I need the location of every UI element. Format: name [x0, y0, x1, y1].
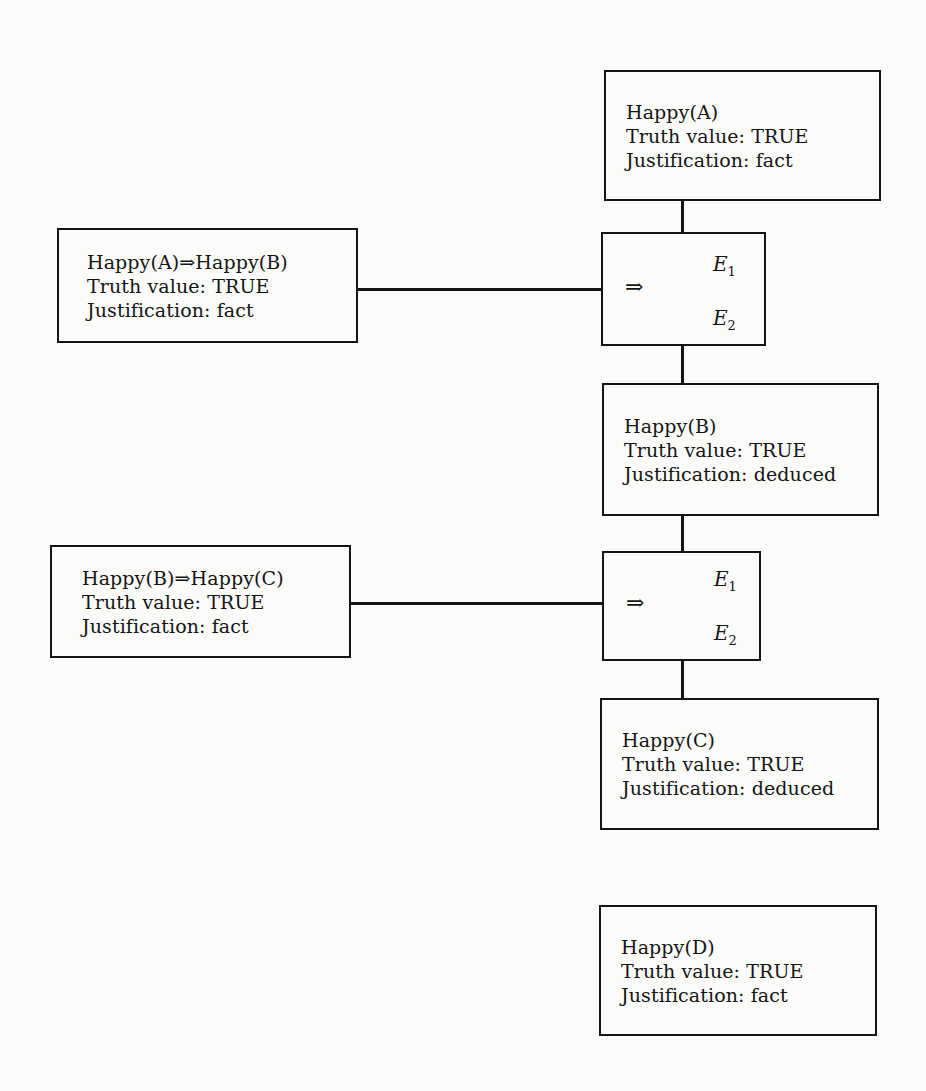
node-happy-b: Happy(B) Truth value: TRUE Justification… [602, 383, 879, 516]
node-label: Happy(B)⇒Happy(C) [82, 566, 284, 590]
rule-node-2: ⇒ E1 E2 [602, 551, 761, 661]
node-happy-d: Happy(D) Truth value: TRUE Justification… [599, 905, 877, 1036]
rule-node-1: ⇒ E1 E2 [601, 232, 766, 346]
edge-rule1-to-b [681, 344, 684, 384]
truth-value: Truth value: TRUE [87, 274, 288, 298]
node-rule-ab: Happy(A)⇒Happy(B) Truth value: TRUE Just… [57, 228, 358, 343]
node-happy-a: Happy(A) Truth value: TRUE Justification… [604, 70, 881, 201]
justification: Justification: deduced [624, 462, 836, 486]
edge-b-to-rule2 [681, 514, 684, 552]
edge-ruleab-to-rule1 [356, 288, 602, 291]
node-label: Happy(A)⇒Happy(B) [87, 250, 288, 274]
node-label: Happy(C) [622, 728, 834, 752]
node-label: Happy(B) [624, 414, 836, 438]
node-happy-c: Happy(C) Truth value: TRUE Justification… [600, 698, 879, 830]
e2-label: E2 [713, 306, 736, 333]
justification: Justification: fact [626, 148, 809, 172]
node-rule-bc: Happy(B)⇒Happy(C) Truth value: TRUE Just… [50, 545, 351, 658]
justification: Justification: deduced [622, 776, 834, 800]
e1-label: E1 [713, 252, 736, 279]
node-label: Happy(A) [626, 100, 809, 124]
justification: Justification: fact [621, 983, 804, 1007]
truth-value: Truth value: TRUE [82, 590, 284, 614]
truth-value: Truth value: TRUE [621, 959, 804, 983]
edge-rule2-to-c [681, 659, 684, 699]
edge-rulebc-to-rule2 [349, 602, 603, 605]
truth-value: Truth value: TRUE [624, 438, 836, 462]
justification: Justification: fact [87, 298, 288, 322]
e1-label: E1 [714, 567, 737, 594]
truth-value: Truth value: TRUE [622, 752, 834, 776]
edge-a-to-rule1 [681, 199, 684, 233]
e2-label: E2 [714, 621, 737, 648]
truth-value: Truth value: TRUE [626, 124, 809, 148]
implies-icon: ⇒ [625, 274, 643, 299]
justification: Justification: fact [82, 614, 284, 638]
implies-icon: ⇒ [626, 590, 644, 615]
node-label: Happy(D) [621, 935, 804, 959]
